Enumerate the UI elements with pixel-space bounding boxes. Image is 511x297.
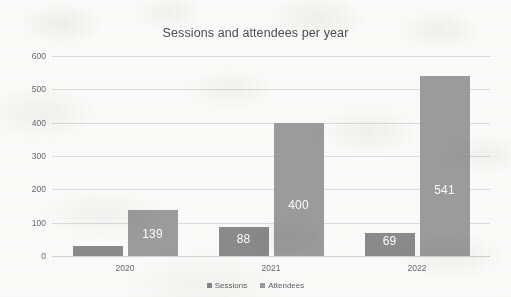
y-axis-tick-label: 600 (32, 51, 46, 61)
bar-group: 1392020 (52, 56, 198, 256)
bar-group: 884002021 (198, 56, 344, 256)
y-axis-tick-label: 200 (32, 184, 46, 194)
x-axis-category-label: 2022 (344, 263, 490, 273)
y-axis-tick-label: 300 (32, 151, 46, 161)
bar-attendees-2020: 139 (128, 210, 178, 256)
bar-value-label: 139 (128, 227, 178, 241)
chart-legend: SessionsAttendees (0, 281, 511, 290)
bar-group: 695412022 (344, 56, 490, 256)
x-axis-category-label: 2021 (198, 263, 344, 273)
bar-value-label: 400 (274, 198, 324, 212)
y-axis-tick-label: 0 (41, 251, 46, 261)
chart-title: Sessions and attendees per year (0, 26, 511, 40)
y-axis-tick-label: 500 (32, 84, 46, 94)
legend-item-label: Sessions (215, 281, 247, 290)
bar-value-label: 541 (420, 183, 470, 197)
bar-chart: Sessions and attendees per year 01002003… (0, 0, 511, 297)
gridline (52, 256, 490, 257)
y-axis-tick-label: 400 (32, 118, 46, 128)
square-swatch-icon (260, 283, 265, 288)
bar-attendees-2021: 400 (274, 123, 324, 256)
legend-item-attendees[interactable]: Attendees (260, 281, 304, 290)
bar-value-label: 88 (219, 232, 269, 246)
bar-sessions-2021: 88 (219, 227, 269, 256)
x-axis-category-label: 2020 (52, 263, 198, 273)
bar-sessions-2022: 69 (365, 233, 415, 256)
plot-area: 0100200300400500600 13920208840020216954… (52, 56, 490, 256)
square-swatch-icon (207, 283, 212, 288)
legend-item-label: Attendees (268, 281, 304, 290)
bar-value-label: 69 (365, 234, 415, 248)
y-axis-tick-label: 100 (32, 218, 46, 228)
bar-attendees-2022: 541 (420, 76, 470, 256)
legend-item-sessions[interactable]: Sessions (207, 281, 247, 290)
bar-groups: 1392020884002021695412022 (52, 56, 490, 256)
bar-sessions-2020 (73, 246, 123, 256)
